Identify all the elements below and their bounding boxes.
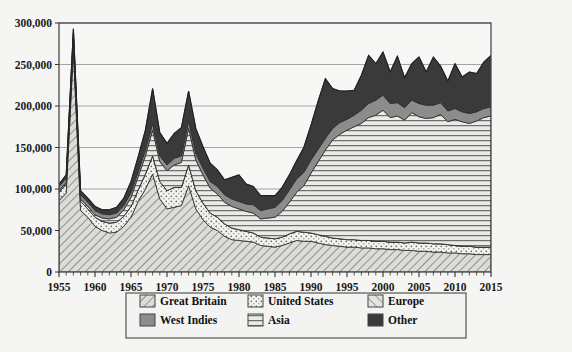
y-axis-tick-label: 100,000 (15, 183, 53, 195)
x-axis-tick-label: 1955 (48, 281, 71, 293)
y-axis-tick-label: 200,000 (15, 100, 53, 112)
x-axis-tick-label: 1965 (120, 281, 143, 293)
asia-swatch (248, 314, 263, 326)
wi-swatch (140, 314, 155, 326)
legend-label: Other (388, 314, 417, 326)
y-axis-tick-label: 50,000 (20, 225, 52, 237)
gb-swatch (140, 295, 155, 307)
x-axis-tick-label: 1985 (264, 281, 287, 293)
x-axis-tick-label: 1995 (336, 281, 359, 293)
legend-label: United States (268, 295, 334, 307)
figure-container: 050,000100,000150,000200,000250,000300,0… (0, 0, 572, 352)
x-axis-tick-label: 2010 (444, 281, 467, 293)
legend-label: Great Britain (160, 295, 227, 307)
x-axis-tick-label: 1990 (300, 281, 323, 293)
y-axis-tick-label: 150,000 (15, 142, 53, 154)
x-axis-tick-label: 1975 (192, 281, 215, 293)
legend-label: West Indies (160, 314, 218, 326)
x-axis-tick-label: 1970 (156, 281, 179, 293)
other-swatch (368, 314, 383, 326)
legend-label: Asia (268, 314, 290, 326)
legend-label: Europe (388, 295, 424, 308)
us-swatch (248, 295, 263, 307)
x-axis-tick-label: 2015 (480, 281, 503, 293)
x-axis-tick-label: 1980 (228, 281, 251, 293)
x-axis-tick-label: 1960 (84, 281, 107, 293)
y-axis-tick-label: 300,000 (15, 17, 53, 29)
stacked-area-chart: 050,000100,000150,000200,000250,000300,0… (0, 0, 572, 352)
x-axis-tick-label: 2005 (408, 281, 431, 293)
y-axis-tick-label: 0 (46, 266, 52, 278)
eu-swatch (368, 295, 383, 307)
y-axis-tick-label: 250,000 (15, 59, 53, 71)
chart-legend: Great BritainUnited StatesEuropeWest Ind… (126, 293, 466, 338)
x-axis-tick-label: 2000 (372, 281, 395, 293)
